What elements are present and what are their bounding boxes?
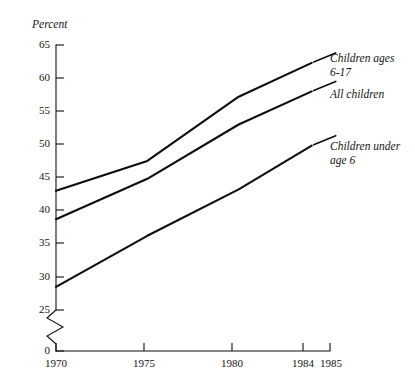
y-axis-tick-label: 40 — [24, 203, 50, 216]
chart-container: Percent 65 60 55 50 45 40 35 30 25 0 197… — [0, 0, 415, 384]
series-line-all-children — [56, 91, 312, 219]
x-axis-tick-label: 1970 — [36, 357, 76, 370]
y-axis-tick-label: 35 — [24, 236, 50, 249]
x-axis-tick-label: 1985 — [311, 357, 351, 370]
series-label-children-6-17: Children ages 6-17 — [330, 52, 394, 80]
y-axis-tick-label: 60 — [24, 71, 50, 84]
y-axis-tick-label: 55 — [24, 104, 50, 117]
series-line-children-under-6 — [56, 146, 312, 287]
series-label-line1: All children — [330, 88, 384, 102]
series-line-children-6-17 — [56, 63, 312, 191]
y-axis-tick-label: 30 — [24, 270, 50, 283]
series-label-children-under-6: Children under age 6 — [330, 140, 400, 168]
series-label-line1: Children under — [330, 140, 400, 154]
y-axis-tick-label: 45 — [24, 170, 50, 183]
y-axis-tick-label: 50 — [24, 137, 50, 150]
series-label-line1: Children ages — [330, 52, 394, 66]
x-axis-tick-label: 1980 — [212, 357, 252, 370]
y-axis-title: Percent — [32, 18, 67, 32]
x-axis-tick-label: 1975 — [124, 357, 164, 370]
series-label-all-children: All children — [330, 88, 384, 102]
y-axis-tick-label: 65 — [24, 38, 50, 51]
y-axis-tick-label: 25 — [24, 303, 50, 316]
y-axis-tick-label: 0 — [24, 344, 50, 357]
series-label-line2: age 6 — [330, 154, 400, 168]
series-label-line2: 6-17 — [330, 66, 394, 80]
